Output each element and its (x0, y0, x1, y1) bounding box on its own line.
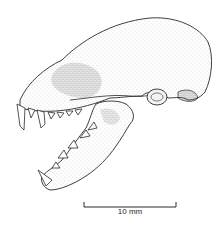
skull-illustration (0, 0, 220, 231)
cranium (20, 18, 212, 112)
mandible (41, 101, 133, 190)
scale-bar-label: 10 mm (104, 207, 156, 216)
